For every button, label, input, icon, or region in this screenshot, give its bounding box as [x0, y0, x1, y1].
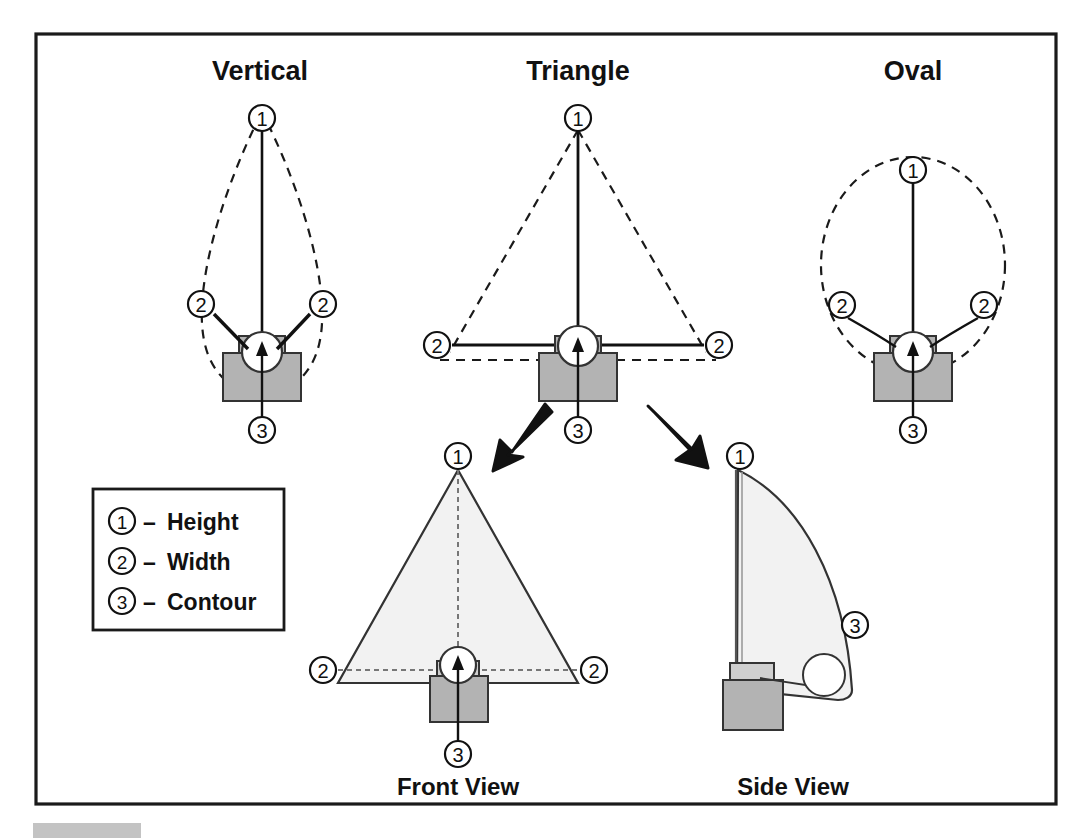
- front-view-marker-contour: 3: [445, 741, 471, 767]
- marker-label-3: 3: [849, 615, 860, 637]
- side-view-clew-circle: [803, 654, 845, 696]
- marker-label-2: 2: [713, 335, 724, 357]
- marker-label-2: 2: [431, 335, 442, 357]
- front-view-marker-width-right: 2: [581, 657, 607, 683]
- legend-text-width: Width: [167, 549, 231, 575]
- marker-label-3: 3: [907, 420, 918, 442]
- side-view-base-assembly: [723, 663, 783, 730]
- legend: 1 – Height 2 – Width 3 – Contour: [93, 489, 284, 630]
- view-title-front: Front View: [397, 773, 520, 800]
- side-view-base-lower-block: [723, 680, 783, 730]
- shape-title-triangle: Triangle: [526, 56, 630, 86]
- oval-marker-height: 1: [900, 157, 926, 183]
- marker-label-2: 2: [317, 294, 328, 316]
- marker-label-1: 1: [572, 108, 583, 130]
- legend-dash-2: –: [143, 549, 156, 575]
- marker-label-1: 1: [256, 108, 267, 130]
- oval-marker-width-right: 2: [971, 292, 997, 318]
- side-view-marker-contour: 3: [842, 612, 868, 638]
- triangle-marker-width-right: 2: [706, 332, 732, 358]
- marker-label-3: 3: [452, 744, 463, 766]
- triangle-marker-height: 1: [565, 105, 591, 131]
- legend-text-height: Height: [167, 509, 239, 535]
- vertical-marker-width-right: 2: [310, 291, 336, 317]
- scan-artifact-bar: [33, 823, 141, 838]
- marker-label-3: 3: [572, 420, 583, 442]
- marker-label-2: 2: [978, 295, 989, 317]
- marker-label-1: 1: [907, 160, 918, 182]
- vertical-marker-contour: 3: [249, 417, 275, 443]
- legend-item-height: 1 – Height: [109, 508, 239, 535]
- triangle-marker-contour: 3: [565, 417, 591, 443]
- view-title-side: Side View: [737, 773, 849, 800]
- marker-label-2: 2: [836, 295, 847, 317]
- marker-label-1: 1: [734, 446, 745, 468]
- legend-text-contour: Contour: [167, 589, 256, 615]
- shape-measurement-diagram: Vertical Triangle Oval 1 2: [0, 0, 1089, 840]
- figure-canvas: Vertical Triangle Oval 1 2: [0, 0, 1089, 840]
- legend-dash-1: –: [143, 509, 156, 535]
- legend-marker-label-3: 3: [117, 592, 128, 613]
- legend-marker-label-2: 2: [117, 552, 128, 573]
- legend-item-width: 2 – Width: [109, 548, 231, 575]
- marker-label-2: 2: [317, 660, 328, 682]
- triangle-marker-width-left: 2: [424, 332, 450, 358]
- front-view-marker-width-left: 2: [310, 657, 336, 683]
- marker-label-1: 1: [452, 446, 463, 468]
- vertical-marker-height: 1: [249, 105, 275, 131]
- vertical-marker-width-left: 2: [188, 291, 214, 317]
- legend-dash-3: –: [143, 589, 156, 615]
- front-view-marker-height: 1: [445, 443, 471, 469]
- oval-marker-contour: 3: [900, 417, 926, 443]
- marker-label-2: 2: [195, 294, 206, 316]
- side-view-marker-height: 1: [727, 443, 753, 469]
- marker-label-3: 3: [256, 420, 267, 442]
- legend-item-contour: 3 – Contour: [109, 588, 256, 615]
- legend-marker-label-1: 1: [117, 512, 128, 533]
- oval-marker-width-left: 2: [829, 292, 855, 318]
- shape-title-oval: Oval: [884, 56, 943, 86]
- shape-title-vertical: Vertical: [212, 56, 308, 86]
- marker-label-2: 2: [588, 660, 599, 682]
